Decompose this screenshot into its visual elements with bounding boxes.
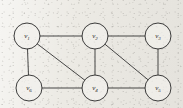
- graph-node-v4: v4: [82, 75, 108, 101]
- graph-node-v2: v2: [82, 23, 108, 49]
- graph-node-v6: v6: [16, 75, 42, 101]
- graph-node-v3: v3: [145, 23, 171, 49]
- edge-v2-v5: [105, 44, 148, 79]
- graph-node-v5: v5: [145, 75, 171, 101]
- graph-figure: v1v2v3v4v5v6: [0, 0, 183, 108]
- graph-canvas: v1v2v3v4v5v6: [0, 0, 183, 108]
- edge-v1-v6: [27, 49, 28, 75]
- edge-v1-v4: [37, 44, 84, 80]
- node-layer: v1v2v3v4v5v6: [14, 23, 171, 101]
- graph-node-v1: v1: [14, 23, 40, 49]
